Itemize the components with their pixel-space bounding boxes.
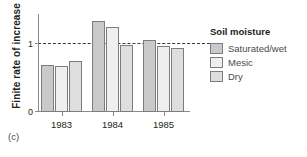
legend-item-dry: Dry [210,70,305,83]
bar-1984-saturated-wet [92,21,105,112]
legend-item-saturated-wet: Saturated/wet [210,42,305,55]
y-tick-label-1: 1 [15,40,33,49]
figure-panel: Finite rate of increase 01198319841985 S… [0,0,307,157]
legend-item-label: Dry [228,71,243,82]
bar-1984-dry [120,45,133,112]
y-tick-label-0: 0 [15,108,33,117]
legend-items: Saturated/wetMesicDry [210,42,305,83]
y-axis-title: Finite rate of increase [11,0,25,112]
bar-1985-saturated-wet [143,40,156,112]
legend-swatch-icon [210,71,223,82]
plot-area: 01198319841985 [38,14,190,112]
bar-1983-saturated-wet [41,65,54,112]
legend-item-label: Mesic [228,57,253,68]
bar-1985-dry [171,48,184,112]
legend-title: Soil moisture [210,26,305,37]
bar-1984-mesic [106,27,119,112]
bar-1983-dry [69,61,82,112]
bar-1983-mesic [55,66,68,112]
x-tick-label-1985: 1985 [141,120,187,130]
panel-label: (c) [8,131,19,142]
legend-swatch-icon [210,43,223,54]
x-tick-label-1984: 1984 [90,120,136,130]
legend-item-label: Saturated/wet [228,43,287,54]
legend-swatch-icon [210,57,223,68]
legend: Soil moisture Saturated/wetMesicDry [210,26,305,84]
y-tick-1 [35,43,39,44]
x-tick-label-1983: 1983 [39,120,85,130]
y-axis-line [38,14,39,112]
bar-1985-mesic [157,46,170,112]
y-tick-0 [35,111,39,112]
legend-item-mesic: Mesic [210,56,305,69]
